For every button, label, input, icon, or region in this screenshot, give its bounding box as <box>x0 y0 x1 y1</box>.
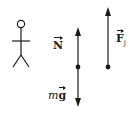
gravity-force-label: mg <box>48 90 66 101</box>
normal-force-symbol: N <box>53 39 63 52</box>
mass-symbol: m <box>48 89 58 102</box>
force-symbol: F <box>116 32 124 45</box>
force-subscript: j <box>124 39 126 47</box>
normal-force-arrowhead-icon <box>75 27 81 36</box>
force-j-arrowhead-icon <box>105 7 111 16</box>
left-body-point <box>76 65 81 70</box>
force-j-label: Fj <box>116 33 126 47</box>
gravity-symbol: g <box>58 89 66 102</box>
gravity-force-arrowhead-icon <box>75 98 81 107</box>
right-body-point <box>106 65 111 70</box>
free-body-diagram: N mg Fj <box>0 0 132 114</box>
right-force-diagram <box>105 7 111 69</box>
stick-figure-icon <box>12 20 30 67</box>
left-force-diagram <box>75 27 81 107</box>
normal-force-label: N <box>53 40 63 51</box>
